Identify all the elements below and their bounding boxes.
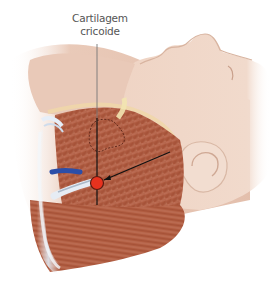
puncture-site-marker — [91, 177, 104, 190]
anatomy-drawing — [0, 0, 278, 288]
cricoid-cartilage-label: Cartilagem cricoide — [60, 12, 140, 38]
label-line-1: Cartilagem — [60, 12, 140, 25]
label-line-2: cricoide — [60, 25, 140, 38]
neck-anatomy-illustration: Cartilagem cricoide — [0, 0, 278, 288]
neck-skin — [28, 54, 135, 118]
vessel-blue — [52, 171, 80, 173]
